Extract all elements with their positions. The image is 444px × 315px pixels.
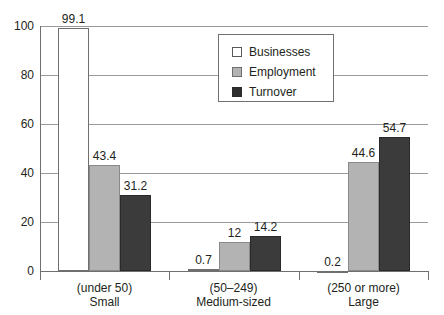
legend-item-employment: Employment [232, 62, 333, 82]
x-category-label-1-line2: Small [40, 295, 169, 309]
x-category-label-3-line2: Large [299, 295, 428, 309]
y-tick-label-60: 60 [0, 118, 34, 130]
x-category-label-3-line1: (250 or more) [327, 281, 400, 295]
x-category-label-3: (250 or more)Large [299, 281, 428, 309]
bar-value-label-businesses-1: 99.1 [46, 13, 101, 25]
bar-businesses-2 [188, 269, 219, 271]
legend-label-businesses: Businesses [249, 46, 310, 58]
x-category-label-1: (under 50)Small [40, 281, 169, 309]
y-tick-label-80: 80 [0, 69, 34, 81]
y-tick-label-20: 20 [0, 216, 34, 228]
bar-value-label-employment-1: 43.4 [77, 150, 132, 162]
x-axis-tick-0 [40, 272, 41, 280]
bar-turnover-1 [120, 195, 151, 271]
bar-businesses-3 [317, 271, 348, 273]
bar-turnover-2 [250, 236, 281, 271]
x-axis-tick-2 [299, 272, 300, 280]
legend-swatch-turnover-icon [232, 87, 242, 97]
legend: Businesses Employment Turnover [218, 34, 334, 102]
legend-label-employment: Employment [249, 66, 316, 78]
x-category-label-1-line1: (under 50) [77, 281, 132, 295]
bar-chart: 020406080100 99.143.431.20.71214.20.244.… [0, 0, 444, 315]
bar-value-label-turnover-2: 14.2 [238, 221, 293, 233]
bar-employment-3 [348, 162, 379, 271]
x-category-label-2-line1: (50–249) [209, 281, 257, 295]
x-axis-line [40, 271, 429, 272]
x-category-label-2: (50–249)Medium-sized [169, 281, 298, 309]
bar-value-label-turnover-3: 54.7 [367, 122, 422, 134]
legend-item-businesses: Businesses [232, 42, 333, 62]
gridline-100 [40, 26, 428, 27]
x-axis-tick-1 [169, 272, 170, 280]
legend-label-turnover: Turnover [249, 86, 297, 98]
legend-swatch-employment-icon [232, 67, 242, 77]
y-tick-label-0: 0 [0, 265, 34, 277]
legend-swatch-businesses-icon [232, 47, 242, 57]
bar-turnover-3 [379, 137, 410, 271]
x-axis-tick-3 [428, 272, 429, 280]
y-tick-label-100: 100 [0, 20, 34, 32]
bar-employment-2 [219, 242, 250, 271]
x-category-label-2-line2: Medium-sized [169, 295, 298, 309]
legend-item-turnover: Turnover [232, 82, 333, 102]
y-tick-label-40: 40 [0, 167, 34, 179]
y-axis-line [40, 26, 41, 272]
bar-value-label-turnover-1: 31.2 [108, 180, 163, 192]
